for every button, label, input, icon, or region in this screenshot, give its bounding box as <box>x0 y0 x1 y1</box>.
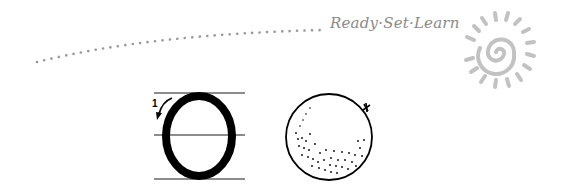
sun-icon <box>466 13 534 87</box>
letter-o-glyph <box>166 96 232 176</box>
dotted-trail <box>37 30 325 62</box>
illustration-canvas: 1 <box>0 0 567 192</box>
brand-logo-text: Ready·Set·Learn <box>330 14 460 32</box>
stroke-number: 1 <box>152 98 158 109</box>
orange-picture <box>286 94 372 180</box>
worksheet-header: 1 Ready·Set·Learn <box>0 0 567 192</box>
